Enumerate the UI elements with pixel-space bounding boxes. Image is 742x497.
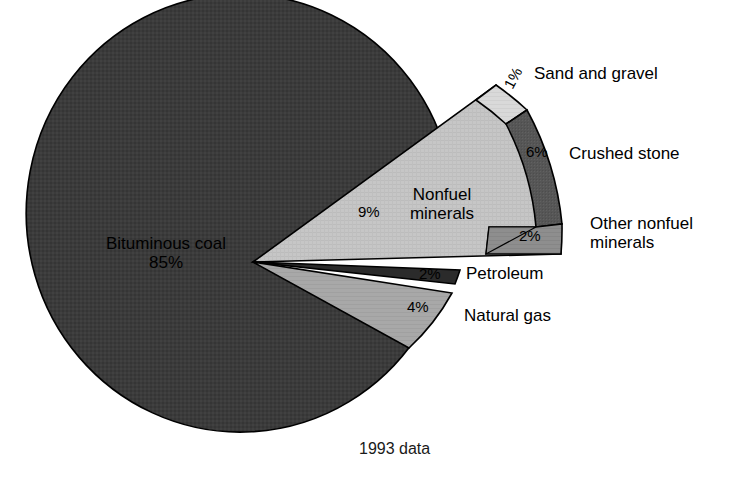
slice-value-bituminous-coal: 85% bbox=[86, 253, 246, 272]
slice-name-nonfuel-minerals-line2: minerals bbox=[397, 204, 487, 223]
pie-chart-figure: Bituminous coal 85% 9% Nonfuel minerals … bbox=[0, 0, 742, 497]
slice-name-nonfuel-minerals-line1: Nonfuel bbox=[397, 185, 487, 204]
slice-name-sand-and-gravel: Sand and gravel bbox=[534, 64, 658, 83]
slice-name-nonfuel-minerals: Nonfuel minerals bbox=[397, 185, 487, 223]
slice-name-bituminous-coal: Bituminous coal bbox=[86, 234, 246, 253]
slice-label-bituminous-coal: Bituminous coal 85% bbox=[86, 234, 246, 272]
slice-name-natural-gas: Natural gas bbox=[464, 306, 551, 325]
chart-footnote: 1993 data bbox=[359, 440, 430, 458]
slice-name-other-nonfuel-minerals: Other nonfuel minerals bbox=[590, 214, 720, 252]
slice-value-natural-gas: 4% bbox=[407, 299, 429, 316]
slice-name-other-nonfuel-minerals-line1: Other nonfuel bbox=[590, 214, 720, 233]
slice-name-petroleum: Petroleum bbox=[466, 264, 543, 283]
slice-value-crushed-stone: 6% bbox=[526, 144, 548, 161]
slice-name-crushed-stone: Crushed stone bbox=[569, 144, 680, 163]
slice-name-other-nonfuel-minerals-line2: minerals bbox=[590, 233, 720, 252]
slice-value-other-nonfuel-minerals: 2% bbox=[519, 228, 541, 245]
slice-value-nonfuel-minerals: 9% bbox=[358, 204, 380, 221]
slice-value-petroleum: 2% bbox=[419, 266, 441, 283]
